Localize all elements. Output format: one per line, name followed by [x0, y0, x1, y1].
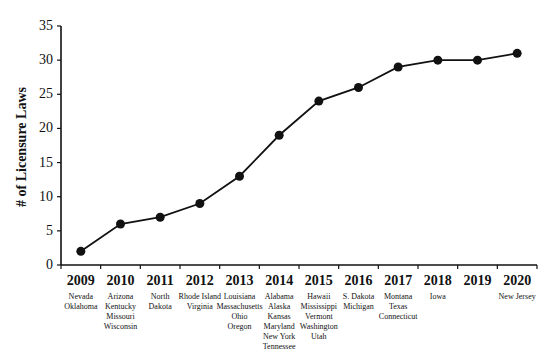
y-tick-label: 0	[23, 257, 53, 273]
state-name: Connecticut	[368, 312, 428, 322]
data-point-marker	[235, 172, 244, 181]
state-name: Utah	[289, 332, 349, 342]
data-point-marker	[513, 49, 522, 58]
state-name: Missouri	[91, 312, 151, 322]
state-list-annotation: New Jersey	[487, 292, 547, 302]
y-tick-label: 30	[23, 52, 53, 68]
state-name: New Jersey	[487, 292, 547, 302]
data-line	[81, 53, 517, 251]
state-list-annotation: Iowa	[408, 292, 468, 302]
state-name: Tennessee	[249, 342, 309, 352]
y-tick-label: 20	[23, 120, 53, 136]
state-name: Texas	[368, 302, 428, 312]
data-point-marker	[433, 56, 442, 65]
state-name: Iowa	[408, 292, 468, 302]
y-tick-label: 5	[23, 223, 53, 239]
data-point-marker	[314, 97, 323, 106]
data-point-marker	[394, 62, 403, 71]
y-tick-label: 35	[23, 18, 53, 34]
data-point-marker	[354, 83, 363, 92]
y-tick-label: 15	[23, 155, 53, 171]
y-tick-label: 25	[23, 86, 53, 102]
data-point-marker	[473, 56, 482, 65]
x-category-2020: 2020New Jersey	[487, 273, 547, 302]
licensure-laws-line-chart: # of Licensure Laws 05101520253035 2009N…	[0, 0, 555, 354]
data-point-marker	[76, 247, 85, 256]
data-point-marker	[275, 131, 284, 140]
y-tick-label: 10	[23, 189, 53, 205]
data-point-marker	[156, 213, 165, 222]
state-name: Washington	[289, 322, 349, 332]
data-point-marker	[116, 220, 125, 229]
data-point-marker	[195, 199, 204, 208]
state-name: Wisconsin	[91, 322, 151, 332]
state-name: Vermont	[289, 312, 349, 322]
x-tick-label: 2020	[487, 273, 547, 289]
